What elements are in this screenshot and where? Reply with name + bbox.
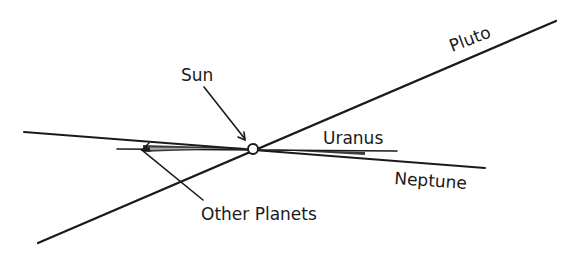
- other-planets-label: Other Planets: [201, 204, 317, 224]
- sun-pointer-line: [204, 87, 245, 139]
- other-planets-pointer-line: [142, 147, 203, 200]
- neptune-label: Neptune: [394, 168, 468, 193]
- sun-arrowhead-icon: [238, 132, 245, 140]
- orbital-plane-diagram: Sun Pluto Uranus Neptune Other Planets: [0, 0, 578, 259]
- uranus-label: Uranus: [323, 128, 383, 148]
- sun-marker: [248, 144, 258, 154]
- sun-label: Sun: [181, 65, 213, 85]
